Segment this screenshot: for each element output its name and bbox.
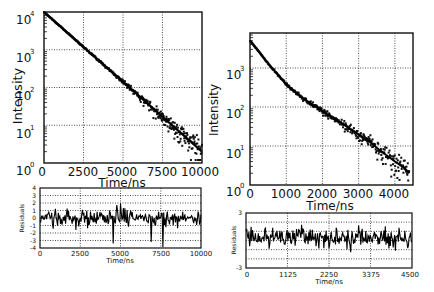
y-tick-labels: 103 102 101 100 xyxy=(226,65,244,199)
svg-text:0: 0 xyxy=(245,271,249,279)
svg-text:3: 3 xyxy=(240,65,244,73)
svg-text:10: 10 xyxy=(16,13,31,27)
svg-text:-2: -2 xyxy=(30,229,36,236)
y-axis-label: Intensity xyxy=(207,84,221,136)
svg-text:0: 0 xyxy=(38,250,42,258)
x-axis-label: Time/ns xyxy=(314,278,343,286)
svg-text:4: 4 xyxy=(32,184,36,191)
svg-text:1: 1 xyxy=(30,124,34,132)
svg-text:-3: -3 xyxy=(236,264,242,271)
svg-text:2: 2 xyxy=(30,86,34,94)
svg-text:4: 4 xyxy=(30,10,35,18)
svg-text:7500: 7500 xyxy=(152,250,170,258)
svg-text:10: 10 xyxy=(226,185,241,199)
svg-text:7500: 7500 xyxy=(147,165,178,179)
svg-text:1125: 1125 xyxy=(279,271,297,279)
y-axis-label: Residuals xyxy=(230,226,237,254)
y-axis-label: Intensity xyxy=(10,67,25,124)
top-left-decay-plot: 104 103 102 101 100 0 2500 5000 7500 100… xyxy=(10,10,219,190)
svg-text:3375: 3375 xyxy=(362,271,380,279)
x-axis-label: Time/ns xyxy=(105,257,134,265)
svg-text:1000: 1000 xyxy=(271,187,302,201)
svg-text:0: 0 xyxy=(240,182,244,190)
svg-text:4500: 4500 xyxy=(401,271,419,279)
svg-text:0: 0 xyxy=(38,165,46,179)
svg-text:4000: 4000 xyxy=(379,187,410,201)
y-tick-labels: 43210-1-2-3-4 xyxy=(30,184,36,251)
top-right-decay-plot: 103 102 101 100 0 1000 2000 3000 4000 Ti… xyxy=(207,33,413,213)
svg-text:3: 3 xyxy=(32,192,36,199)
svg-text:-1: -1 xyxy=(30,222,36,229)
svg-text:0: 0 xyxy=(32,214,36,221)
svg-text:2500: 2500 xyxy=(68,165,99,179)
svg-text:2500: 2500 xyxy=(71,250,89,258)
svg-text:10: 10 xyxy=(226,107,241,121)
svg-text:2: 2 xyxy=(32,199,36,206)
svg-text:1: 1 xyxy=(32,207,36,214)
svg-text:1: 1 xyxy=(240,144,244,152)
svg-text:3: 3 xyxy=(238,209,242,216)
svg-text:10: 10 xyxy=(16,164,31,178)
svg-text:10000: 10000 xyxy=(190,250,212,258)
svg-text:-4: -4 xyxy=(30,244,36,251)
svg-text:10: 10 xyxy=(226,68,241,82)
svg-text:2: 2 xyxy=(240,104,244,112)
svg-text:3: 3 xyxy=(30,48,34,56)
plot-frame xyxy=(250,33,413,185)
svg-text:10: 10 xyxy=(16,127,31,141)
svg-text:0: 0 xyxy=(246,187,254,201)
svg-text:0: 0 xyxy=(30,161,34,169)
svg-text:-3: -3 xyxy=(30,237,36,244)
figure: 104 103 102 101 100 0 2500 5000 7500 100… xyxy=(0,0,434,292)
svg-text:10: 10 xyxy=(16,51,31,65)
bottom-left-residuals-plot: 43210-1-2-3-4 0 2500 5000 7500 10000 Tim… xyxy=(18,184,212,265)
y-axis-label: Residuals xyxy=(18,204,25,232)
x-axis-label: Time/ns xyxy=(305,199,353,213)
svg-text:10000: 10000 xyxy=(181,165,219,179)
svg-text:10: 10 xyxy=(226,147,241,161)
bottom-right-residuals-plot: 3 -3 0 1125 2250 3375 4500 Time/ns Resid… xyxy=(230,209,419,286)
